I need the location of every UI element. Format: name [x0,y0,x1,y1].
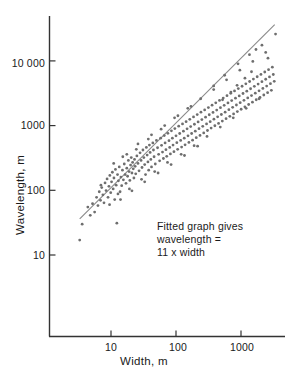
scatter-point [170,129,173,132]
scatter-point [251,101,254,104]
scatter-point [171,137,174,140]
scatter-point [202,132,205,135]
scatter-point [186,127,189,130]
scatter-point [196,113,199,116]
axes-spines [49,16,285,337]
scatter-point [145,146,148,149]
scatter-point [186,107,189,110]
scatter-point [193,144,196,147]
scatter-point [154,163,157,166]
scatter-point [258,97,261,100]
scatter-point [147,160,150,163]
scatter-point [237,62,240,65]
scatter-point [265,85,268,88]
scatter-point [232,113,235,116]
chart-figure: 10 000 1000 100 10 10 100 1000 Wavelengt… [0,0,288,372]
scatter-point [115,184,118,187]
scatter-point [91,202,94,205]
scatter-point [121,155,124,158]
scatter-point [273,80,276,83]
scatter-point [199,134,202,137]
scatter-point [164,142,167,145]
scatter-point [236,84,239,87]
scatter-point [120,184,123,187]
scatter-point [250,94,253,97]
scatter-points-group [78,33,277,242]
scatter-point [146,154,149,157]
scatter-point [212,85,215,88]
scatter-point [129,164,132,167]
scatter-point [219,106,222,109]
scatter-point [269,82,272,85]
scatter-point [114,168,117,171]
scatter-point [108,185,111,188]
scatter-point [130,156,133,159]
scatter-point [233,90,236,93]
scatter-point [228,115,231,118]
scatter-point [143,163,146,166]
scatter-point [176,148,179,151]
scatter-point [185,120,188,123]
scatter-point [128,170,131,173]
scatter-point [225,78,228,81]
scatter-point [153,155,156,158]
scatter-point [249,87,252,90]
y-tick-label-1000: 1000 [0,119,45,131]
x-tick-label-10: 10 [91,341,131,353]
scatter-point [142,149,145,152]
y-tick-label-10: 10 [0,249,45,261]
scatter-point [95,196,98,199]
scatter-point [215,109,218,112]
scatter-point [227,102,230,105]
scatter-point [209,120,212,123]
scatter-point [213,124,216,127]
scatter-point [98,190,101,193]
scatter-point [175,141,178,144]
scatter-point [255,98,258,101]
scatter-point [257,83,260,86]
scatter-point [141,166,144,169]
scatter-point [244,77,247,80]
annotation-line-3: 11 x width [157,246,205,258]
scatter-point [86,206,89,209]
scatter-point [125,167,128,170]
scatter-point [137,162,140,165]
scatter-point [267,57,270,60]
scatter-point [119,198,122,201]
scatter-point [108,174,111,177]
scatter-point [156,146,159,149]
scatter-point [180,153,183,156]
scatter-point [168,139,171,142]
scatter-point [178,132,181,135]
scatter-point [177,125,180,128]
scatter-point [203,108,206,111]
scatter-point [256,75,259,78]
scatter-point [147,138,150,141]
scatter-point [232,116,235,119]
scatter-point [124,173,127,176]
scatter-point [216,115,219,118]
scatter-point [231,106,234,109]
scatter-point [199,97,202,100]
scatter-point [242,92,245,95]
scatter-point [196,145,199,148]
scatter-point [211,104,214,107]
scatter-point [213,118,216,121]
scatter-point [245,90,248,93]
scatter-point [238,69,241,72]
scatter-point [180,146,183,149]
scatter-point [240,108,243,111]
scatter-point [169,153,172,156]
scatter-point [117,192,120,195]
scatter-point [206,129,209,132]
scatter-point [263,71,266,74]
scatter-point [158,159,161,162]
scatter-point [157,153,160,156]
scatter-point [131,189,134,192]
scatter-point [221,120,224,123]
scatter-point [177,114,180,117]
scatter-point [239,101,242,104]
scatter-point [264,78,267,81]
scatter-point [120,176,123,179]
scatter-point [255,48,258,51]
